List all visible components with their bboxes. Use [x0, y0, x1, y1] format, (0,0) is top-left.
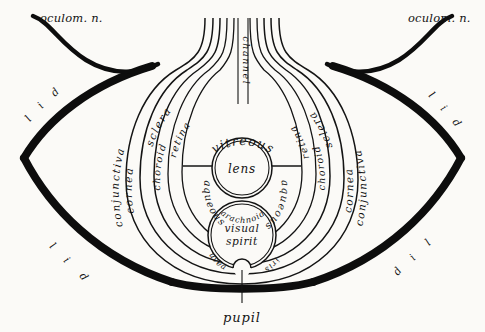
eye-diagram-figure: oculom. n. oculom. n. channel conjunctiv… [0, 0, 485, 332]
lens-label: lens [228, 162, 256, 176]
visual-spirit-label-line1: visual [225, 222, 260, 234]
pupil-label: pupil [223, 310, 261, 325]
right-oculomotor-label: oculom. n. [408, 11, 471, 25]
left-oculomotor-label: oculom. n. [40, 11, 103, 25]
channel-label-text: channel [241, 36, 252, 85]
eye-diagram-canvas: oculom. n. oculom. n. channel conjunctiv… [0, 0, 485, 332]
visual-spirit-label-line2: spirit [226, 235, 258, 247]
